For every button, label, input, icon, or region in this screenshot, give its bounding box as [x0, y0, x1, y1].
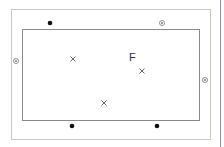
diagram-canvas [0, 0, 224, 147]
filled-dot [48, 21, 53, 26]
cross-mark [140, 69, 145, 74]
circled-dot [203, 78, 208, 83]
cross-mark [71, 57, 76, 62]
right-edge-divider [220, 0, 221, 147]
filled-dot [70, 124, 75, 129]
circled-dot [14, 59, 19, 64]
label-f: F [129, 52, 136, 63]
cross-mark [102, 101, 107, 106]
circled-dot [160, 21, 165, 26]
inner-rectangle [23, 30, 200, 121]
filled-dot [155, 124, 160, 129]
